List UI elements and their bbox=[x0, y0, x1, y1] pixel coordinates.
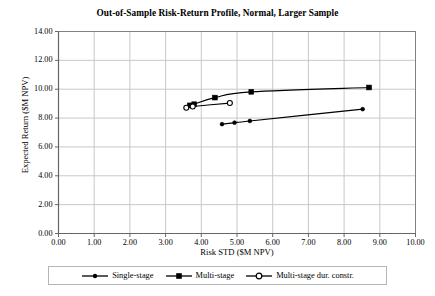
chart-legend: Single-stageMulti-stageMulti-stage dur. … bbox=[48, 266, 387, 285]
data-point-marker bbox=[190, 104, 195, 109]
chart-container: Out-of-Sample Risk-Return Profile, Norma… bbox=[0, 0, 435, 296]
data-point-marker bbox=[233, 121, 237, 125]
data-point-marker bbox=[184, 105, 189, 110]
y-tick-label: 6.00 bbox=[13, 143, 53, 151]
plot-area bbox=[0, 0, 435, 296]
legend-item[interactable]: Multi-stage bbox=[165, 271, 235, 281]
legend-item[interactable]: Single-stage bbox=[81, 271, 153, 281]
data-point-marker bbox=[220, 122, 224, 126]
legend-item[interactable]: Multi-stage dur. constr. bbox=[245, 271, 354, 281]
y-tick-label: 12.00 bbox=[13, 56, 53, 64]
legend-label: Multi-stage dur. constr. bbox=[276, 271, 354, 280]
y-tick-label: 8.00 bbox=[13, 114, 53, 122]
data-point-marker bbox=[227, 101, 232, 106]
legend-marker-icon bbox=[165, 271, 193, 281]
legend-marker-icon bbox=[81, 271, 109, 281]
legend-label: Multi-stage bbox=[196, 271, 235, 280]
y-tick-label: 2.00 bbox=[13, 201, 53, 209]
y-tick-label: 14.00 bbox=[13, 28, 53, 36]
data-point-marker bbox=[361, 107, 365, 111]
y-tick-label: 4.00 bbox=[13, 172, 53, 180]
y-tick-label: 10.00 bbox=[13, 85, 53, 93]
data-point-marker bbox=[249, 89, 254, 94]
data-point-marker bbox=[212, 95, 217, 100]
legend-marker-icon bbox=[245, 271, 273, 281]
x-tick-label: 10.00 bbox=[394, 239, 435, 247]
data-point-marker bbox=[367, 85, 372, 90]
data-point-marker bbox=[248, 119, 252, 123]
legend-label: Single-stage bbox=[112, 271, 153, 280]
y-tick-label: 0.00 bbox=[13, 230, 53, 238]
